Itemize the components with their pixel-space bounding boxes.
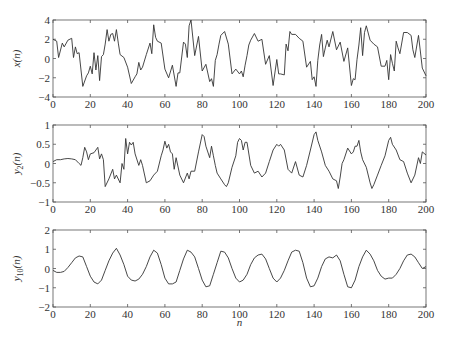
x-tick-label: 0 xyxy=(50,308,56,320)
y-tick-label: 0 xyxy=(45,53,51,65)
y-tick-label: 2 xyxy=(45,224,51,236)
y-tick-label: 4 xyxy=(45,14,51,26)
y-tick-label: 1 xyxy=(45,243,51,255)
x-tick-label: 160 xyxy=(343,203,360,215)
y-tick-label: 1 xyxy=(45,119,51,131)
y-tick-label: −2 xyxy=(38,301,50,313)
signal-trace xyxy=(53,132,426,189)
y-tick-label: 0.5 xyxy=(36,138,50,150)
y-tick-label: −2 xyxy=(38,72,50,84)
x-tick-label: 0 xyxy=(50,203,56,215)
x-tick-label: 100 xyxy=(231,98,248,110)
y-tick-label: 2 xyxy=(45,33,51,45)
x-tick-label: 80 xyxy=(197,98,209,110)
x-tick-label: 100 xyxy=(231,203,248,215)
figure: 020406080100120140160180200−4−2024x(n)02… xyxy=(0,0,452,345)
x-tick-label: 140 xyxy=(306,203,323,215)
signal-trace xyxy=(53,20,426,86)
x-tick-label: 80 xyxy=(197,308,209,320)
x-tick-label: 60 xyxy=(159,98,171,110)
subplot-3: 020406080100120140160180200−2−1012y10(n) xyxy=(10,224,435,320)
x-tick-label: 200 xyxy=(418,203,435,215)
y-axis-label: x(n) xyxy=(10,49,23,68)
x-tick-label: 120 xyxy=(269,308,286,320)
x-tick-label: 40 xyxy=(122,98,134,110)
x-tick-label: 140 xyxy=(306,308,323,320)
subplot-2: 020406080100120140160180200−1−0.500.51y2… xyxy=(10,119,435,215)
y-axis-label: y10(n) xyxy=(10,255,25,282)
x-tick-label: 180 xyxy=(380,203,397,215)
plot-frame xyxy=(53,20,426,97)
y-tick-label: 0 xyxy=(45,158,51,170)
x-tick-label: 60 xyxy=(159,308,171,320)
x-tick-label: 80 xyxy=(197,203,209,215)
y-tick-label: −0.5 xyxy=(30,177,50,189)
x-tick-label: 20 xyxy=(85,203,97,215)
y-tick-label: −1 xyxy=(38,196,50,208)
x-tick-label: 180 xyxy=(380,308,397,320)
signal-trace xyxy=(53,248,426,287)
x-tick-label: 200 xyxy=(418,98,435,110)
x-tick-label: 140 xyxy=(306,98,323,110)
x-tick-label: 40 xyxy=(122,308,134,320)
x-tick-label: 160 xyxy=(343,98,360,110)
x-tick-label: 60 xyxy=(159,203,171,215)
plot-frame xyxy=(53,125,426,202)
y-axis-label: y2(n) xyxy=(10,152,25,175)
x-tick-label: 40 xyxy=(122,203,134,215)
x-tick-label: 0 xyxy=(50,98,56,110)
y-tick-label: 0 xyxy=(45,263,51,275)
x-axis-label: n xyxy=(237,316,243,328)
y-tick-label: −4 xyxy=(38,91,50,103)
x-tick-label: 160 xyxy=(343,308,360,320)
subplot-1: 020406080100120140160180200−4−2024x(n) xyxy=(10,14,435,110)
x-tick-label: 20 xyxy=(85,98,97,110)
plot-frame xyxy=(53,230,426,307)
x-tick-label: 120 xyxy=(269,203,286,215)
y-tick-label: −1 xyxy=(38,282,50,294)
x-tick-label: 180 xyxy=(380,98,397,110)
x-tick-label: 120 xyxy=(269,98,286,110)
x-tick-label: 20 xyxy=(85,308,97,320)
x-tick-label: 200 xyxy=(418,308,435,320)
